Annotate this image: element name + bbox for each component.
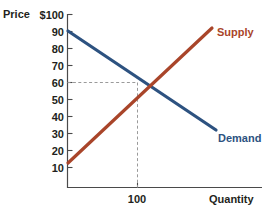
- y-axis-ticks: [68, 15, 73, 168]
- supply-curve: [68, 28, 212, 163]
- demand-series-label: Demand: [218, 133, 261, 144]
- supply-demand-chart: Price Quantity $100 90 80 70 60 50 40 30…: [0, 0, 272, 216]
- supply-series-label: Supply: [217, 27, 254, 38]
